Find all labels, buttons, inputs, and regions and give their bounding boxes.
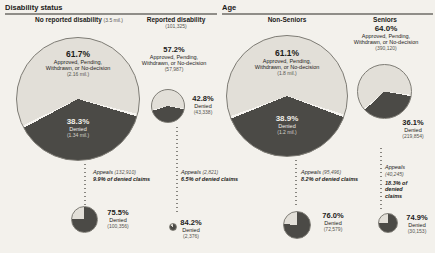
panel-title-disability: Disability status: [5, 3, 63, 12]
pie-appeals-reported-disability: [169, 223, 177, 231]
denied-pct: 36.1%: [392, 119, 434, 127]
group-label-count: (101,325): [146, 23, 206, 29]
pie-appeals-seniors: [378, 213, 398, 233]
connector-appeals-4: [380, 148, 382, 210]
appeals-share: 9.9% of denied claims: [93, 176, 150, 183]
appeals-result-3: 76.0% Denied (72,579): [313, 212, 353, 232]
group-label-text: No reported disability: [35, 16, 102, 23]
appeals-share: 18.3% of denied claims: [385, 180, 415, 200]
approved-pct: 57.2%: [132, 46, 216, 54]
denied-block: 42.8% Denied (43,338): [184, 95, 222, 115]
approved-block: 64.0% Approved, Pending, Withdrawn, or N…: [346, 24, 426, 51]
appeals-note-4: Appeals (40,245) 18.3% of denied claims: [385, 164, 419, 199]
approved-pct: 61.7%: [17, 50, 139, 59]
pie-appeals-no-reported-disability: [71, 206, 98, 233]
group-label-reported-disability: Reported disability (101,325): [146, 16, 206, 29]
appeals-denied-count: (2,376): [178, 233, 204, 239]
panel-title-age: Age: [222, 3, 236, 12]
appeals-result-1: 75.5% Denied (100,356): [100, 209, 136, 229]
appeals-note-3: Appeals (95,496) 8.2% of denied claims: [301, 169, 358, 182]
appeals-count: (95,496): [322, 169, 341, 175]
panel-disability-status: Disability status No reported disability…: [0, 0, 218, 253]
approved-pct: 64.0%: [346, 24, 426, 33]
group-label-seniors: Seniors: [355, 16, 415, 23]
denied-block: 38.3% Denied (1.34 mil.): [17, 117, 139, 138]
approved-count: (2.16 mil.): [17, 71, 139, 77]
approved-count: (57,987): [132, 66, 216, 72]
denied-count: (219,854): [392, 133, 434, 139]
connector-appeals-2: [176, 127, 178, 215]
appeals-share: 8.2% of denied claims: [301, 176, 358, 183]
appeals-result-4: 74.9% Denied (30,153): [400, 214, 434, 234]
pie-non-seniors: 61.1% Approved, Pending, Withdrawn, or N…: [226, 35, 348, 157]
approved-pct: 61.1%: [227, 49, 347, 58]
appeals-note-1: Appeals (132,910) 9.9% of denied claims: [93, 169, 150, 182]
denied-count: (43,338): [184, 109, 222, 115]
appeals-word: Appeals: [181, 169, 201, 175]
panel-age: Age Non-Seniors 61.1% Approved, Pending,…: [218, 0, 435, 253]
appeals-count: (132,910): [114, 169, 135, 175]
denied-block: 36.1% Denied (219,854): [392, 119, 434, 139]
appeals-count: (2,821): [202, 169, 218, 175]
title-rule: [5, 13, 217, 15]
approved-count: (390,120): [346, 45, 426, 51]
appeals-denied-pct: 75.5%: [100, 209, 136, 217]
group-label-text: Reported disability: [146, 16, 206, 23]
appeals-word: Appeals: [93, 169, 113, 175]
approved-block: 57.2% Approved, Pending, Withdrawn, or N…: [132, 46, 216, 72]
appeals-denied-count: (72,579): [313, 226, 353, 232]
group-label-no-reported-disability: No reported disability (3.5 mil.): [6, 16, 152, 23]
denied-pct: 38.3%: [17, 117, 139, 126]
appeals-word: Appeals: [301, 169, 321, 175]
pie-appeals-non-seniors: [283, 211, 311, 239]
appeals-denied-count: (30,153): [400, 228, 434, 234]
denied-pct: 42.8%: [184, 95, 222, 103]
denied-block: 38.9% Denied (1.2 mil.): [227, 114, 347, 135]
appeals-result-2: 84.2% Denied (2,376): [178, 219, 204, 239]
approved-block: 61.1% Approved, Pending, Withdrawn, or N…: [227, 49, 347, 76]
connector-appeals-3: [295, 160, 297, 208]
appeals-denied-pct: 74.9%: [400, 214, 434, 222]
group-label-non-seniors: Non-Seniors: [247, 16, 327, 23]
approved-block: 61.7% Approved, Pending, Withdrawn, or N…: [17, 50, 139, 77]
connector-appeals-1: [84, 164, 86, 205]
approved-count: (1.8 mil.): [227, 70, 347, 76]
pie-no-reported-disability: 61.7% Approved, Pending, Withdrawn, or N…: [16, 37, 140, 161]
pie-seniors: [357, 64, 412, 119]
denied-count: (1.2 mil.): [227, 129, 347, 135]
appeals-denied-pct: 84.2%: [178, 219, 204, 227]
pie-reported-disability: [151, 89, 185, 123]
denied-count: (1.34 mil.): [17, 132, 139, 138]
denied-pct: 38.9%: [227, 114, 347, 123]
title-rule: [222, 13, 433, 15]
appeals-denied-count: (100,356): [100, 223, 136, 229]
appeals-count: (40,245): [385, 171, 419, 177]
group-label-count: (3.5 mil.): [104, 17, 123, 23]
appeals-denied-pct: 76.0%: [313, 212, 353, 220]
